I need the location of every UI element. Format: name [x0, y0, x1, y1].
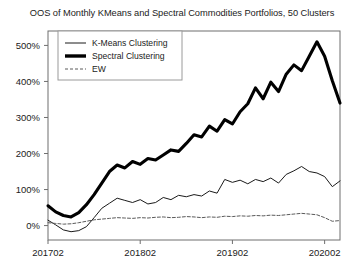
x-axis-tick-label: 201702 [32, 247, 64, 258]
y-axis-tick-label: 0% [26, 220, 40, 231]
x-axis-tick-label: 201802 [124, 247, 156, 258]
x-axis-tick-label: 201902 [217, 247, 249, 258]
y-axis-tick-label: 200% [16, 148, 41, 159]
legend-box: K-Means ClusteringSpectral ClusteringEW [58, 31, 182, 80]
legend-label-1: K-Means Clustering [92, 38, 168, 48]
x-axis-tick-label: 202002 [309, 247, 341, 258]
plot-area: 0%100%200%300%400%500%201702201802201902… [0, 0, 364, 278]
y-axis-tick-label: 300% [16, 112, 41, 123]
y-axis-tick-label: 400% [16, 76, 41, 87]
chart-figure: OOS of Monthly KMeans and Spectral Commo… [0, 0, 364, 278]
series-line-3 [48, 213, 340, 224]
y-axis-tick-label: 100% [16, 184, 41, 195]
y-axis-tick-label: 500% [16, 40, 41, 51]
legend-label-3: EW [92, 64, 107, 74]
legend-label-2: Spectral Clustering [92, 51, 165, 61]
